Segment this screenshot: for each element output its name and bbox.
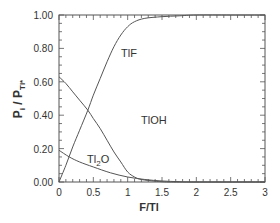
x-tick-label: 0.5 bbox=[86, 187, 100, 198]
y-tick-label: 0.20 bbox=[34, 144, 54, 155]
x-tick-label: 1.5 bbox=[155, 187, 169, 198]
x-tick-label: 1 bbox=[125, 187, 131, 198]
x-tick-label: 2 bbox=[194, 187, 200, 198]
y-axis-label: Pi / PTl* bbox=[11, 79, 27, 118]
x-tick-label: 0 bbox=[56, 187, 62, 198]
y-tick-label: 0.80 bbox=[34, 43, 54, 54]
tl2o-prefix: Tl bbox=[87, 153, 96, 165]
x-tick-label: 2.5 bbox=[224, 187, 238, 198]
x-axis-label: F/Tl bbox=[139, 201, 159, 213]
y-tick-label: 0.40 bbox=[34, 110, 54, 121]
tick-labels: 00.511.522.530.000.200.400.600.801.00 bbox=[34, 10, 269, 198]
y-tick-label: 0.00 bbox=[34, 177, 54, 188]
ylabel-slash-p: / P bbox=[11, 90, 25, 108]
x-tick-label: 3 bbox=[262, 187, 268, 198]
svg-text:Pi / PTl*: Pi / PTl* bbox=[11, 79, 27, 118]
ylabel-p: P bbox=[11, 110, 25, 118]
series-label-tlf: TlF bbox=[121, 47, 137, 59]
chart: 00.511.522.530.000.200.400.600.801.00 Tl… bbox=[0, 0, 280, 223]
y-tick-label: 0.60 bbox=[34, 77, 54, 88]
y-tick-label: 1.00 bbox=[34, 10, 54, 21]
ylabel-sub-tl: Tl* bbox=[18, 79, 27, 90]
tl2o-suffix: O bbox=[101, 153, 110, 165]
series-label-tloh: TlOH bbox=[141, 114, 167, 126]
